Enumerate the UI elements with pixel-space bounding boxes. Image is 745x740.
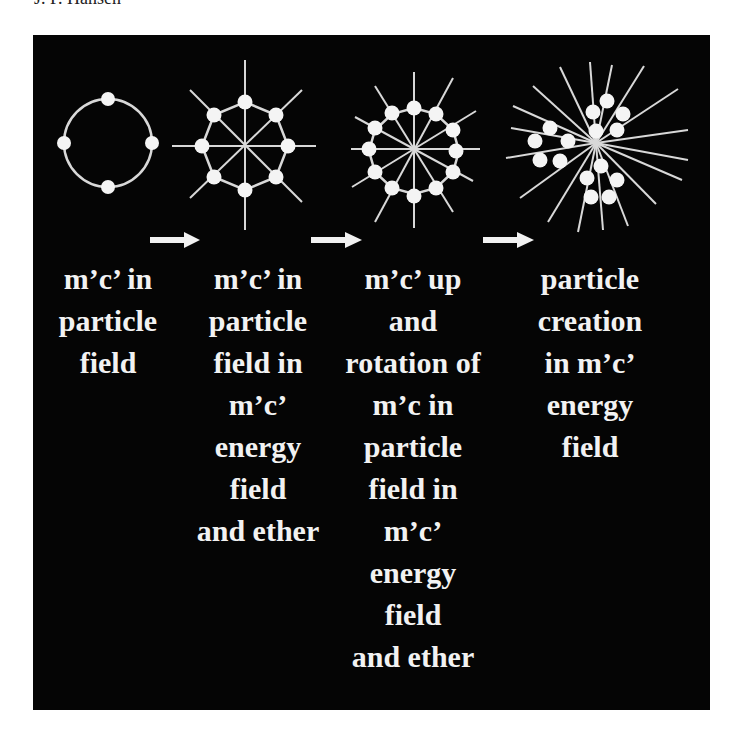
caption-line: m’c’ in [48,258,168,300]
caption-line: energy [188,426,328,468]
caption-line: energy [525,384,655,426]
right-arrow-icon [311,232,362,248]
right-arrow-icon [483,232,534,248]
caption-line: creation [525,300,655,342]
caption-line: particle [343,426,483,468]
stage-4-figure [506,62,688,232]
caption-line: and ether [343,636,483,678]
caption-line: m’c’ in [188,258,328,300]
caption-line: and [343,300,483,342]
stage-1-caption: m’c’ in particle field [48,258,168,384]
caption-line: energy [343,552,483,594]
caption-line: m’c’ [188,384,328,426]
stage-3-figure [351,72,480,228]
caption-line: particle [525,258,655,300]
caption-line: in m’c’ [525,342,655,384]
caption-line: field [188,468,328,510]
caption-line: field in [343,468,483,510]
caption-line: rotation of [343,342,483,384]
caption-line: field [525,426,655,468]
caption-line: and ether [188,510,328,552]
stage-1-figure [57,92,159,194]
caption-line: field [48,342,168,384]
stage-2-caption: m’c’ in particle field in m’c’ energy fi… [188,258,328,552]
stage-4-caption: particle creation in m’c’ energy field [525,258,655,468]
caption-line: particle [48,300,168,342]
caption-line: m’c in [343,384,483,426]
caption-line: m’c’ up [343,258,483,300]
caption-line: particle [188,300,328,342]
stage-2-figure [172,60,316,230]
right-arrow-icon [150,232,200,248]
stage-3-caption: m’c’ up and rotation of m’c in particle … [343,258,483,678]
caption-line: m’c’ [343,510,483,552]
caption-line: field in [188,342,328,384]
caption-line: field [343,594,483,636]
